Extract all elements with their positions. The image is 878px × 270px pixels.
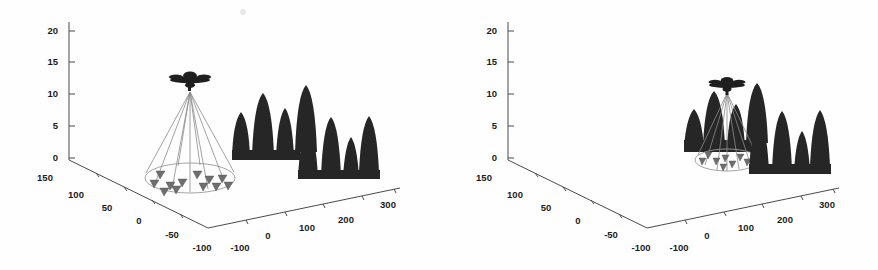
y-tick-label: -50 xyxy=(604,229,618,240)
figure-container: 20 15 10 5 0 150 100 50 0 -50 -100 -100 … xyxy=(0,0,878,270)
z-tick-label: 0 xyxy=(492,152,497,163)
x-tick-label: -100 xyxy=(230,242,249,253)
y-tick-label: 100 xyxy=(68,189,84,200)
z-tick-marks-left xyxy=(69,31,75,158)
y-tick-label: 150 xyxy=(37,172,53,183)
y-tick-label: -100 xyxy=(631,242,650,253)
x-tick-label: 300 xyxy=(819,199,835,210)
z-tick-label: 10 xyxy=(486,88,497,99)
y-tick-label: -50 xyxy=(165,229,179,240)
x-tick-label: 100 xyxy=(299,222,315,233)
terrain-peaks-left xyxy=(232,85,380,179)
z-tick-label: 10 xyxy=(47,88,58,99)
z-tick-label: 20 xyxy=(47,25,58,36)
x-tick-label: 300 xyxy=(380,199,396,210)
plot-axes-right: 20 15 10 5 0 150 100 50 0 -50 -100 -100 … xyxy=(439,0,878,270)
x-tick-label: -100 xyxy=(669,242,688,253)
z-tick-label: 15 xyxy=(486,56,497,67)
plot-panel-right: 20 15 10 5 0 150 100 50 0 -50 -100 -100 … xyxy=(439,0,878,270)
z-tick-label: 20 xyxy=(486,25,497,36)
y-tick-label: 50 xyxy=(102,202,113,213)
y-tick-label: 0 xyxy=(136,215,141,226)
x-tick-label: 200 xyxy=(338,214,354,225)
x-tick-label: 200 xyxy=(777,214,793,225)
x-tick-marks-right xyxy=(685,189,835,224)
x-tick-label: 0 xyxy=(704,230,709,241)
plot-panel-left: 20 15 10 5 0 150 100 50 0 -50 -100 -100 … xyxy=(0,0,439,270)
plot-axes-left: 20 15 10 5 0 150 100 50 0 -50 -100 -100 … xyxy=(0,0,439,270)
z-tick-marks-right xyxy=(508,31,514,158)
y-tick-label: 150 xyxy=(476,172,492,183)
x-tick-label: 0 xyxy=(265,230,270,241)
axis-lines-left xyxy=(69,22,400,228)
axis-lines-right xyxy=(508,22,839,228)
y-tick-label: 100 xyxy=(507,189,523,200)
x-tick-label: 100 xyxy=(738,222,754,233)
z-tick-label: 15 xyxy=(47,56,58,67)
y-tick-label: 0 xyxy=(575,215,580,226)
z-tick-label: 5 xyxy=(53,120,59,131)
z-tick-label: 0 xyxy=(53,152,58,163)
x-tick-marks-left xyxy=(246,189,396,224)
scan-artifact xyxy=(240,9,246,15)
uav-drone-icon-left xyxy=(169,72,211,92)
y-tick-label: 50 xyxy=(541,202,552,213)
z-tick-label: 5 xyxy=(492,120,498,131)
ground-node-markers-left xyxy=(150,171,233,196)
y-tick-label: -100 xyxy=(192,242,211,253)
